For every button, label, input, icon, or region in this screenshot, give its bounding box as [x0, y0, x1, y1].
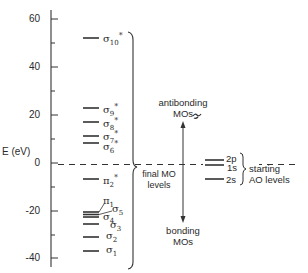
label-sigma2: σ2 [106, 231, 117, 245]
antibonding-line1: antibonding [155, 97, 211, 108]
tick-label-neg40: -40 [10, 253, 40, 263]
label-sigma6-star: σ6* [103, 139, 118, 156]
bonding-line1: bonding [159, 225, 207, 236]
tick-label-neg20: -20 [10, 206, 40, 216]
diagram-graphics [0, 0, 308, 273]
ao-label-2s: 2s [226, 174, 236, 185]
axis-ticks [51, 19, 58, 258]
bonding-label: bonding MOs [159, 225, 207, 247]
tick-label-20: 20 [10, 110, 40, 120]
ao-label-1s: 1s [227, 162, 237, 173]
axis-title: E (eV) [2, 146, 30, 157]
starting-line1: starting [249, 163, 290, 174]
mo-levels [83, 38, 99, 251]
label-sigma10-star: σ10* [103, 31, 123, 48]
final-mo-levels-label: final MO levels [136, 169, 182, 191]
antibonding-line2: MOs [155, 108, 211, 119]
arrow-up-head [181, 121, 186, 128]
bonding-line2: MOs [159, 236, 207, 247]
starting-ao-levels-label: starting AO levels [249, 163, 290, 185]
antibonding-label: antibonding MOs [155, 97, 211, 119]
tick-label-60: 60 [10, 14, 40, 24]
label-pi2-star: π2* [103, 173, 118, 190]
tick-label-0: 0 [10, 158, 40, 168]
tick-label-40: 40 [10, 62, 40, 72]
final-line1: final MO [136, 169, 182, 180]
starting-line2: AO levels [249, 174, 290, 185]
label-sigma1: σ1 [106, 245, 117, 259]
arrow-down-head [181, 216, 186, 223]
final-line2: levels [136, 180, 182, 191]
mo-brace [128, 32, 137, 269]
